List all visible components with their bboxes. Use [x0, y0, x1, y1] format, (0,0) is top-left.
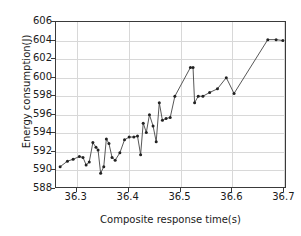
data-point — [97, 149, 100, 152]
data-point — [91, 141, 94, 144]
y-tick-label: 598 — [8, 90, 52, 100]
data-point — [81, 156, 84, 159]
x-tick-mark — [283, 188, 284, 192]
y-tick-mark — [51, 132, 55, 133]
data-point — [193, 101, 196, 104]
y-tick-label: 594 — [8, 127, 52, 137]
data-point — [225, 76, 228, 79]
data-point — [72, 158, 75, 161]
y-tick-label: 606 — [8, 16, 52, 26]
plot-area — [55, 21, 286, 188]
data-point — [136, 135, 139, 138]
data-point — [85, 163, 88, 166]
data-point — [114, 159, 117, 162]
data-point — [99, 172, 102, 175]
x-tick-mark — [128, 188, 129, 192]
data-point — [142, 122, 145, 125]
data-point — [201, 95, 204, 98]
x-tick-label: 36.5 — [157, 191, 203, 202]
data-point — [111, 156, 114, 159]
data-point — [66, 160, 69, 163]
y-tick-label: 588 — [8, 183, 52, 193]
chart-figure: Energy consumption(J) 588590592594596598… — [0, 0, 301, 236]
data-point — [216, 87, 219, 90]
data-point — [161, 119, 164, 122]
x-tick-label: 36.6 — [208, 191, 254, 202]
data-point — [275, 38, 278, 41]
x-tick-label: 36.4 — [105, 191, 151, 202]
data-point — [173, 95, 176, 98]
data-point — [94, 146, 97, 149]
x-axis-title: Composite response time(s) — [55, 214, 286, 225]
y-tick-label: 600 — [8, 72, 52, 82]
series-markers — [59, 38, 285, 175]
y-tick-mark — [51, 188, 55, 189]
data-point — [132, 136, 135, 139]
data-point — [105, 137, 108, 140]
data-point — [197, 95, 200, 98]
data-point — [266, 38, 269, 41]
data-point — [59, 165, 62, 168]
data-point — [107, 142, 110, 145]
series-polyline — [60, 40, 283, 174]
data-point — [139, 153, 142, 156]
data-point — [165, 117, 168, 120]
data-point — [189, 66, 192, 69]
data-point — [192, 66, 195, 69]
y-tick-mark — [51, 95, 55, 96]
data-point — [88, 161, 91, 164]
data-point — [169, 116, 172, 119]
x-tick-mark — [231, 188, 232, 192]
y-tick-label: 592 — [8, 146, 52, 156]
y-tick-mark — [51, 77, 55, 78]
x-tick-mark — [76, 188, 77, 192]
y-tick-label: 604 — [8, 35, 52, 45]
y-tick-mark — [51, 40, 55, 41]
data-point — [281, 39, 284, 42]
data-point — [118, 151, 121, 154]
y-tick-mark — [51, 58, 55, 59]
x-tick-label: 36.3 — [53, 191, 99, 202]
x-tick-label: 36.7 — [260, 191, 301, 202]
data-point — [233, 92, 236, 95]
y-tick-mark — [51, 114, 55, 115]
data-series-line — [56, 22, 286, 188]
data-point — [102, 165, 105, 168]
y-tick-label: 590 — [8, 164, 52, 174]
data-point — [78, 155, 81, 158]
y-tick-mark — [51, 151, 55, 152]
y-tick-mark — [51, 169, 55, 170]
data-point — [158, 101, 161, 104]
x-tick-mark — [180, 188, 181, 192]
data-point — [145, 131, 148, 134]
data-point — [152, 124, 155, 127]
y-tick-mark — [51, 21, 55, 22]
y-tick-label: 602 — [8, 53, 52, 63]
y-tick-label: 596 — [8, 109, 52, 119]
data-point — [123, 138, 126, 141]
data-point — [128, 136, 131, 139]
data-point — [208, 91, 211, 94]
data-point — [155, 140, 158, 143]
data-point — [148, 113, 151, 116]
